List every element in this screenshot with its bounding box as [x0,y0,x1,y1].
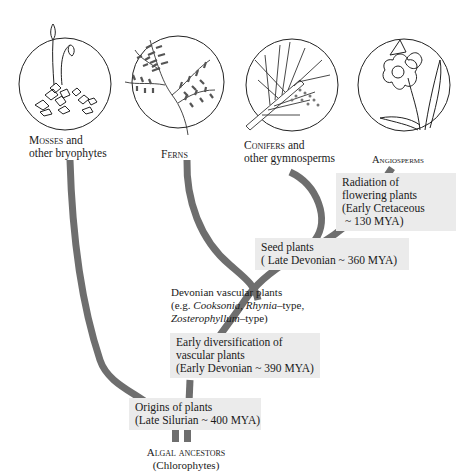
angiosperms-label: Angiosperms [372,153,424,166]
early-div-line2: vascular plants [176,349,245,361]
seed-plants-node: Seed plants ( Late Devonian ~ 360 MYA) [255,238,409,270]
algal-ancestors-label: Algal ancestors (Chlorophytes) [136,446,236,472]
conifers-label-caps: Conifers [244,139,285,151]
mosses-label: Mosses and other bryophytes [29,134,107,160]
early-diversification-node: Early diversification of vascular plants… [170,333,320,378]
origins-of-plants-node: Origins of plants (Late Silurian ~ 400 M… [129,398,261,430]
root-trunk-right [184,428,191,442]
angiosperms-label-caps: Angiosperms [372,154,424,165]
devonian-cooksonia: Cooksonia [193,299,240,311]
conifers-label-line2: other gymnosperms [244,152,335,164]
early-div-line3: (Early Devonian ~ 390 MYA) [176,362,314,374]
devonian-line2-prefix: (e.g. [171,299,193,311]
devonian-line2-suffix: –type, [277,299,304,311]
ferns-branch [187,160,258,300]
mosses-label-line2: other bryophytes [29,147,107,159]
conifers-label-rest: and [285,139,304,151]
ferns-label-caps: Ferns [161,148,188,160]
seed-line1: Seed plants [261,241,314,253]
early-div-line1: Early diversification of [176,336,283,348]
fern-frond-illustration-icon [132,36,224,128]
radiation-line2: flowering plants [342,189,417,201]
daffodil-drawing [380,40,441,130]
radiation-flowering-plants-node: Radiation of flowering plants (Early Cre… [336,173,456,231]
conifer-drawing [246,42,330,130]
algal-ancestors-caps: Algal ancestors [147,446,226,458]
devonian-rhynia: Rhynia [246,299,277,311]
root-trunk-left [172,428,179,442]
radiation-line4: ~ 130 MYA) [345,215,404,227]
conifers-label: Conifers and other gymnosperms [244,139,335,165]
origins-line1: Origins of plants [135,401,212,413]
moss-illustration-icon [19,38,111,130]
devonian-line3-suffix: –type) [240,312,268,324]
radiation-line3: (Early Cretaceous [342,202,425,214]
devonian-line1: Devonian vascular plants [171,286,282,298]
devonian-vascular-plants-node: Devonian vascular plants (e.g. Cooksonia… [171,286,304,325]
algal-ancestors-line2: (Chlorophytes) [153,459,220,471]
seed-line2: ( Late Devonian ~ 360 MYA) [261,254,397,266]
radiation-line1: Radiation of [342,176,399,188]
mosses-label-rest: and [63,134,82,146]
mosses-branch [70,160,170,425]
devonian-zosterophyllum: Zosterophyllum [171,312,240,324]
ferns-label: Ferns [161,148,188,161]
fern-drawing [125,40,215,135]
mosses-label-caps: Mosses [29,134,63,146]
plant-phylogeny-diagram: Mosses and other bryophytes Ferns Conife… [0,0,462,476]
origins-line2: (Late Silurian ~ 400 MYA) [135,414,260,426]
